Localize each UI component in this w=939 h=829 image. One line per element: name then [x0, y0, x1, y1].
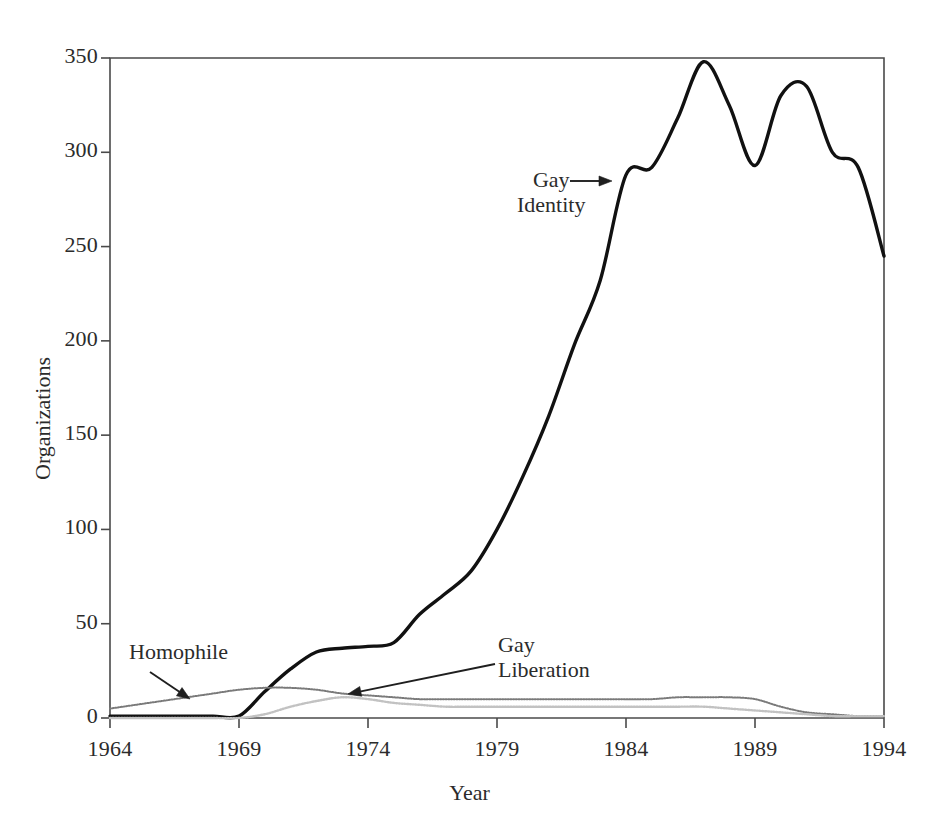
x-tick-1979: 1979: [452, 736, 542, 762]
series-lines: [110, 62, 884, 719]
x-tick-1984: 1984: [581, 736, 671, 762]
annotation-arrows: [150, 176, 612, 699]
series-line-gay-identity: [110, 62, 884, 718]
annotation-gay-identity: Gay Identity: [517, 168, 585, 217]
annotation-homophile: Homophile: [129, 640, 228, 665]
y-tick-200: 200: [30, 326, 98, 352]
line-chart-canvas: [0, 0, 939, 829]
y-tick-350: 350: [30, 43, 98, 69]
y-tick-50: 50: [30, 609, 98, 635]
x-tick-1974: 1974: [323, 736, 413, 762]
x-tick-1989: 1989: [710, 736, 800, 762]
arrow-gay-liberation: [348, 664, 495, 696]
x-tick-1964: 1964: [65, 736, 155, 762]
y-tick-300: 300: [30, 137, 98, 163]
arrow-homophile: [150, 672, 190, 699]
chart-figure: 050100150200250300350 196419691974197919…: [0, 0, 939, 829]
axis-frame: [110, 58, 884, 718]
y-tick-250: 250: [30, 232, 98, 258]
annotation-gay-liberation: Gay Liberation: [498, 633, 590, 682]
series-line-gay-liberation: [110, 697, 884, 718]
x-tick-1969: 1969: [194, 736, 284, 762]
y-tick-100: 100: [30, 514, 98, 540]
y-tick-0: 0: [30, 703, 98, 729]
axis-ticks: [101, 58, 884, 728]
x-axis-title: Year: [0, 780, 939, 806]
x-tick-1994: 1994: [839, 736, 929, 762]
y-axis-title: Organizations: [30, 357, 56, 480]
